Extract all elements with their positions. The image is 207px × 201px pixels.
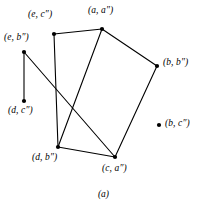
label-b_b: (b, b″)	[163, 58, 188, 68]
point-d_c	[22, 99, 26, 103]
edge-d_b-c_a	[58, 147, 115, 157]
figure-container: (e, c″)(a, a″)(e, b″)(b, b″)(d, c″)(b, c…	[0, 0, 207, 201]
label-b_c: (b, c″)	[165, 119, 190, 129]
label-e_b: (e, b″)	[4, 33, 29, 43]
node-layer	[22, 27, 161, 159]
edge-layer	[24, 29, 157, 157]
point-d_b	[56, 145, 60, 149]
label-c_a: (c, a″)	[102, 164, 127, 174]
figure-caption: (a)	[0, 190, 207, 200]
edge-e_c-a_a	[54, 29, 102, 34]
label-a_a: (a, a″)	[88, 6, 113, 16]
edge-a_a-d_b	[58, 29, 102, 147]
edge-e_b-c_a	[24, 52, 115, 157]
edge-b_b-c_a	[115, 66, 157, 157]
point-b_b	[155, 64, 159, 68]
label-d_b: (d, b″)	[32, 153, 57, 163]
point-e_c	[52, 32, 56, 36]
point-a_a	[100, 27, 104, 31]
point-b_c	[157, 123, 161, 127]
edge-a_a-b_b	[102, 29, 157, 66]
point-c_a	[113, 155, 117, 159]
label-d_c: (d, c″)	[8, 106, 33, 116]
point-e_b	[22, 50, 26, 54]
label-e_c: (e, c″)	[28, 10, 52, 20]
